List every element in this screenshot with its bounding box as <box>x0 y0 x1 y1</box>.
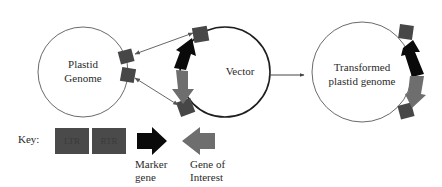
key-goi-label-1: Gene of <box>190 158 225 171</box>
key-title: Key: <box>18 133 39 146</box>
transformed-genome-label-1: Transformed <box>322 61 402 74</box>
key-gene-of-interest-arrow <box>182 127 215 155</box>
key-ltr-box: LTR <box>55 128 89 154</box>
plastid-ltr-square <box>118 48 135 64</box>
transformed-ltr-square <box>398 24 414 40</box>
crossover-line-bottom <box>135 78 178 105</box>
key-marker-label-1: Marker <box>135 158 167 171</box>
key-marker-gene-arrow <box>137 127 167 155</box>
transformed-genome-label-2: plastid genome <box>322 75 402 88</box>
key-rtr-box: RTR <box>92 128 126 154</box>
vector-marker-gene-arrow <box>174 38 196 70</box>
plastid-genome-label-2: Genome <box>53 72 113 85</box>
key-marker-label-2: gene <box>135 171 156 184</box>
vector-ltr-square <box>192 26 209 43</box>
vector-gene-of-interest-arrow <box>172 70 194 104</box>
vector-rtr-square <box>176 98 195 117</box>
key-goi-label-2: Interest <box>190 171 223 184</box>
plastid-rtr-square <box>120 67 136 83</box>
vector-label: Vector <box>215 65 265 78</box>
plastid-genome-label-1: Plastid <box>53 58 113 71</box>
